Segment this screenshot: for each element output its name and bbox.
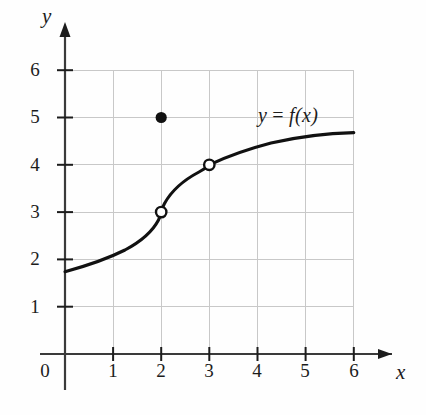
open-point-2-3 <box>156 207 166 217</box>
curve-label-y: y <box>258 104 267 126</box>
origin-label: 0 <box>34 361 56 380</box>
curve-label-equals: = <box>272 104 284 126</box>
filled-point-2-5 <box>156 112 167 123</box>
xtick-label-5: 5 <box>294 361 316 380</box>
graph-figure: 6 5 4 3 2 1 0 1 2 3 4 5 6 y x y=f(x) <box>0 0 426 415</box>
y-axis-label: y <box>42 6 51 27</box>
plot-canvas <box>0 0 426 415</box>
curve-label: y=f(x) <box>258 104 318 127</box>
ytick-label-2: 2 <box>24 249 46 268</box>
xtick-label-2: 2 <box>150 361 172 380</box>
axis-lines <box>40 26 392 390</box>
xtick-label-6: 6 <box>343 361 365 380</box>
x-axis-arrowhead <box>378 349 392 359</box>
open-point-3-4 <box>204 160 214 170</box>
xtick-label-3: 3 <box>198 361 220 380</box>
ytick-label-6: 6 <box>24 60 46 79</box>
ytick-label-4: 4 <box>24 155 46 174</box>
curve-label-fx: f(x) <box>289 104 318 126</box>
ytick-label-3: 3 <box>24 202 46 221</box>
y-axis-arrowhead <box>60 22 71 37</box>
ytick-label-5: 5 <box>24 107 46 126</box>
x-axis-label: x <box>396 362 405 383</box>
xtick-label-1: 1 <box>102 361 124 380</box>
ytick-label-1: 1 <box>24 297 46 316</box>
xtick-label-4: 4 <box>246 361 268 380</box>
